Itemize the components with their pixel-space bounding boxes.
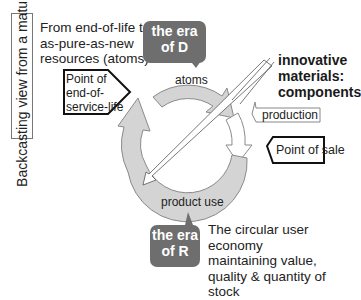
era-r-badge: the era of R xyxy=(150,225,200,267)
era-d-line-1: the era xyxy=(143,23,206,39)
bottom-text: The circular user economy maintaining va… xyxy=(208,222,357,300)
production-label: production xyxy=(262,108,318,122)
innovative-label: innovative materials: components xyxy=(278,52,361,100)
side-label-box: Backcasting view from a mature CE xyxy=(11,13,33,139)
end-of-service-label: Point of end-of- service-life xyxy=(66,72,123,114)
point-of-sale-label: Point of sale xyxy=(276,143,345,157)
innovative-line-1: innovative xyxy=(278,52,361,68)
innovative-line-3: components xyxy=(278,84,361,100)
top-left-text: From end-of-life to as-pure-as-new resou… xyxy=(40,20,150,67)
eos-line-2: end-of- xyxy=(66,86,123,100)
era-d-badge: the era of D xyxy=(143,21,206,63)
era-r-line-2: of R xyxy=(150,243,200,259)
product-use-label: product use xyxy=(161,195,224,209)
atoms-label: atoms xyxy=(175,73,208,87)
side-label: Backcasting view from a mature CE xyxy=(14,0,30,187)
production-arc xyxy=(226,113,252,163)
innovative-line-2: materials: xyxy=(278,68,361,84)
top-left-line-2: as-pure-as-new xyxy=(40,36,150,52)
eos-line-3: service-life xyxy=(66,100,123,114)
bottom-line-2: maintaining value, xyxy=(208,253,357,269)
bottom-line-3: quality & quantity of stock xyxy=(208,269,357,300)
top-left-line-3: resources (atoms) xyxy=(40,51,150,67)
top-left-line-1: From end-of-life to xyxy=(40,20,150,36)
era-d-line-2: of D xyxy=(143,39,206,55)
era-r-line-1: the era xyxy=(150,227,200,243)
eos-line-1: Point of xyxy=(66,72,123,86)
bottom-line-1: The circular user economy xyxy=(208,222,357,253)
